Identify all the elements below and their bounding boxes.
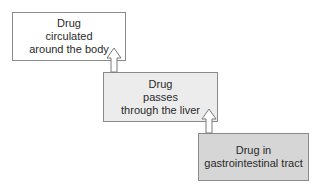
- arrows-layer: [0, 0, 325, 188]
- arrow-up-icon: [202, 109, 216, 133]
- arrow-up-icon: [107, 48, 121, 72]
